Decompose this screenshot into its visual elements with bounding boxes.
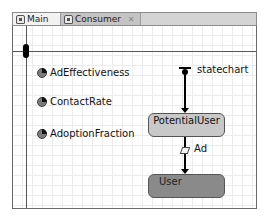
parameter-icon xyxy=(37,129,47,139)
parameter-icon xyxy=(37,68,47,78)
parameter-label: AdEffectiveness xyxy=(50,66,130,80)
origin-marker-icon xyxy=(23,44,29,58)
transition-ad-label: Ad xyxy=(194,143,207,154)
state-label: PotentialUser xyxy=(153,115,220,126)
tab-consumer-label: Consumer xyxy=(75,14,121,24)
parameter-label: AdoptionFraction xyxy=(50,127,135,141)
entry-transition-line[interactable] xyxy=(184,73,186,109)
parameter-label: ContactRate xyxy=(50,95,112,109)
tab-consumer[interactable]: Consumer ✕ xyxy=(61,13,141,25)
editor-tab-bar: Main Consumer ✕ xyxy=(12,12,257,26)
tab-main-label: Main xyxy=(27,14,49,24)
state-user[interactable]: User xyxy=(148,174,225,198)
parameter-icon xyxy=(37,97,47,107)
agent-type-icon xyxy=(64,15,73,24)
close-icon[interactable]: ✕ xyxy=(128,15,135,24)
agent-type-icon xyxy=(16,15,25,24)
statechart-entry-label: statechart xyxy=(197,64,248,75)
state-label: User xyxy=(159,176,182,187)
state-potential-user[interactable]: PotentialUser xyxy=(148,113,225,137)
message-transition-icon xyxy=(180,147,191,154)
graphical-editor-canvas[interactable]: AdEffectiveness ContactRate AdoptionFrac… xyxy=(12,26,257,209)
tab-main[interactable]: Main xyxy=(13,13,61,25)
canvas-x-axis xyxy=(13,51,256,52)
